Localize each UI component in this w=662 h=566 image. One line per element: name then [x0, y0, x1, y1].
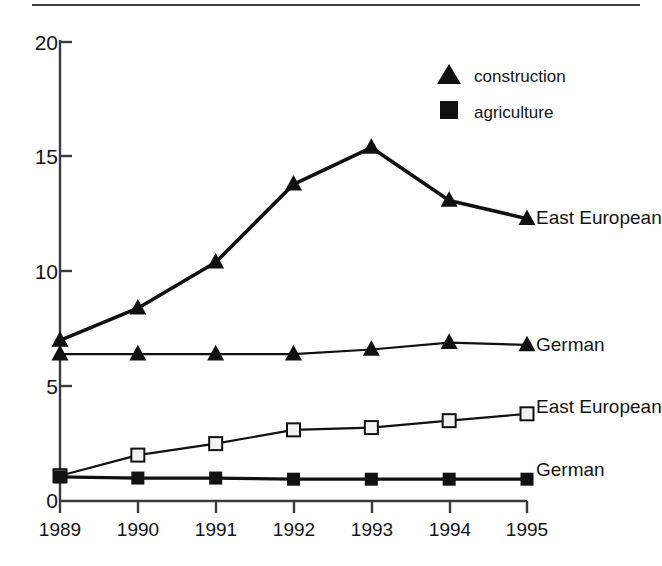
data-point-marker — [443, 414, 456, 427]
data-point-marker — [441, 333, 458, 349]
ytick-label-20: 20 — [12, 31, 58, 55]
xtick-label-1994: 1994 — [415, 519, 485, 541]
data-point-marker — [209, 437, 222, 450]
series-construction-east-european — [52, 138, 536, 346]
ytick-label-15: 15 — [12, 145, 58, 169]
data-point-marker — [441, 191, 458, 207]
xtick-label-1993: 1993 — [337, 519, 407, 541]
data-point-marker — [129, 345, 146, 361]
data-point-marker — [365, 473, 378, 486]
data-point-marker — [52, 345, 69, 361]
xtick-label-1989: 1989 — [25, 519, 95, 541]
xtick-label-1991: 1991 — [181, 519, 251, 541]
data-point-marker — [363, 138, 380, 154]
series-agriculture-east-european — [54, 407, 534, 482]
data-point-marker — [519, 336, 536, 352]
data-point-marker — [443, 473, 456, 486]
data-point-marker — [521, 407, 534, 420]
series-label-agriculture-east-european: East European — [536, 396, 662, 418]
legend-construction-triangle-icon — [436, 62, 462, 86]
series-agriculture-german — [54, 470, 534, 485]
ytick-label-5: 5 — [12, 375, 58, 399]
data-point-marker — [287, 423, 300, 436]
xtick-label-1995: 1995 — [492, 519, 562, 541]
data-point-marker — [131, 472, 144, 485]
data-point-marker — [209, 472, 222, 485]
series-label-agriculture-german: German — [536, 459, 605, 481]
legend-label-construction: construction — [474, 67, 566, 87]
xtick-label-1990: 1990 — [103, 519, 173, 541]
data-point-marker — [131, 449, 144, 462]
chart-series-layer — [52, 138, 536, 485]
ytick-label-10: 10 — [12, 260, 58, 284]
legend-label-agriculture: agriculture — [474, 103, 553, 123]
xtick-label-1992: 1992 — [259, 519, 329, 541]
series-label-construction-german: German — [536, 334, 605, 356]
data-point-marker — [365, 421, 378, 434]
data-point-marker — [521, 473, 534, 486]
data-point-marker — [285, 345, 302, 361]
ytick-label-0: 0 — [12, 489, 58, 513]
data-point-marker — [207, 345, 224, 361]
legend-agriculture-square-icon — [438, 99, 460, 121]
data-point-marker — [54, 470, 67, 483]
series-construction-german — [52, 333, 536, 360]
series-label-construction-east-european: East European — [536, 207, 662, 229]
data-point-marker — [287, 473, 300, 486]
